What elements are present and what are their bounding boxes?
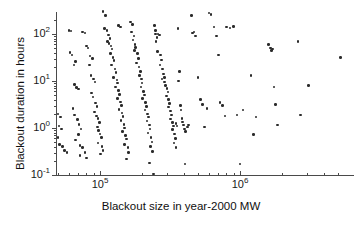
data-point [116, 97, 119, 100]
data-point [184, 163, 187, 166]
y-tick-label: 102 [2, 28, 50, 39]
data-point [141, 82, 144, 85]
data-point [142, 90, 145, 93]
data-point [144, 101, 147, 104]
data-point [114, 86, 117, 89]
data-point [78, 123, 81, 126]
data-point [125, 138, 128, 141]
data-point [132, 39, 135, 42]
data-point [177, 27, 180, 30]
data-point [172, 125, 175, 128]
data-point [145, 105, 148, 108]
data-point [107, 34, 110, 37]
data-point [210, 13, 213, 16]
data-point [213, 26, 216, 29]
data-point [110, 45, 113, 48]
data-point [101, 145, 104, 148]
data-point [92, 78, 95, 81]
data-point [73, 83, 76, 86]
data-point [74, 139, 77, 142]
data-point [84, 151, 87, 154]
data-point [180, 109, 183, 112]
data-point [178, 70, 181, 73]
data-point [97, 129, 100, 132]
data-point [133, 35, 136, 38]
data-point [81, 146, 84, 149]
data-point [236, 114, 239, 117]
data-point [299, 114, 302, 117]
data-point [250, 74, 253, 77]
data-point [149, 145, 152, 148]
data-point [191, 32, 194, 35]
data-point [171, 128, 174, 131]
data-point [109, 52, 112, 55]
data-point [100, 136, 103, 139]
data-point [102, 10, 105, 13]
data-point [274, 103, 277, 106]
data-point [146, 113, 149, 116]
data-point [91, 57, 94, 60]
data-point [224, 115, 227, 118]
data-point [138, 66, 141, 69]
data-point [148, 162, 151, 165]
scatter-plot-figure: 10-1100101102 105106 Blackout duration i… [0, 0, 362, 225]
data-point [252, 133, 255, 136]
data-point [116, 82, 119, 85]
data-point [97, 117, 100, 120]
data-point [73, 64, 76, 67]
data-point [276, 124, 279, 127]
data-point [155, 40, 158, 43]
data-point [167, 106, 170, 109]
data-point [139, 70, 142, 73]
data-point [156, 50, 159, 53]
data-point [123, 123, 126, 126]
data-point [197, 76, 200, 79]
data-point [130, 31, 133, 34]
data-point [137, 57, 140, 60]
data-point [169, 118, 172, 121]
data-point [96, 105, 99, 108]
data-point [160, 59, 163, 62]
data-point [113, 59, 116, 62]
data-point [201, 103, 204, 106]
data-point [190, 14, 193, 17]
data-point [147, 116, 150, 119]
data-point [215, 35, 218, 38]
data-point [90, 92, 93, 95]
data-point [121, 112, 124, 115]
data-point [109, 37, 112, 40]
data-point [136, 52, 139, 55]
data-point [297, 40, 300, 43]
data-point [267, 43, 270, 46]
data-point [123, 127, 126, 130]
data-point [242, 109, 245, 112]
data-point [77, 88, 80, 91]
data-point [158, 34, 161, 37]
data-point [122, 115, 125, 118]
data-point [143, 94, 146, 97]
data-point [118, 108, 121, 111]
data-point [140, 78, 143, 81]
data-point [181, 117, 184, 120]
data-point [127, 151, 130, 154]
data-point [176, 125, 179, 128]
data-point [151, 150, 154, 153]
y-axis-title: Blackout duration in hours [14, 37, 26, 170]
y-tick-label: 100 [2, 122, 50, 133]
data-point [120, 119, 123, 122]
plot-data-area [57, 12, 353, 175]
data-point [125, 158, 128, 161]
data-point [94, 81, 97, 84]
data-point [270, 49, 273, 52]
data-point [99, 133, 102, 136]
data-point [141, 97, 144, 100]
data-point [104, 14, 107, 17]
data-point [181, 121, 184, 124]
data-point [121, 130, 124, 133]
data-point [115, 71, 118, 74]
data-point [73, 114, 76, 117]
data-point [70, 30, 73, 33]
data-point [146, 120, 149, 123]
data-point [138, 74, 141, 77]
data-point [177, 80, 180, 83]
